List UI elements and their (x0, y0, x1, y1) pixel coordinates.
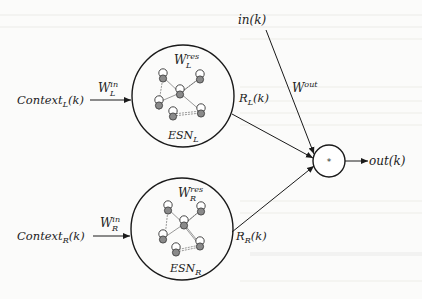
left-input-weight-label: WinL (98, 80, 118, 98)
output-label: out(k) (369, 154, 406, 168)
right-state-label: RR(k) (235, 229, 267, 245)
esn-architecture-diagram: WresL ESNL WresR ESNR (0, 0, 422, 299)
esn-left: WresL ESNL (132, 45, 234, 147)
esn-right: WresR ESNR (131, 178, 233, 280)
esn-right-label: ESNR (169, 262, 201, 277)
direct-input-label: in(k) (238, 13, 267, 27)
reservoir-right-weight: WresR (178, 185, 203, 203)
left-context-label: ContextL(k) (17, 93, 84, 109)
reservoir-left-weight: WresL (174, 52, 199, 70)
right-input-weight-label: WinR (100, 215, 120, 233)
direct-input-arrow (266, 30, 314, 154)
output-weight-label: Wout (292, 80, 318, 95)
reservoir-left-nodes (155, 69, 205, 120)
reservoir-right-nodes (159, 201, 205, 256)
esn-left-label: ESNL (167, 129, 199, 144)
right-state-arrow (232, 166, 314, 232)
combiner-symbol: * (327, 157, 332, 167)
left-state-label: RL(k) (238, 91, 269, 107)
right-context-label: ContextR(k) (17, 229, 85, 245)
